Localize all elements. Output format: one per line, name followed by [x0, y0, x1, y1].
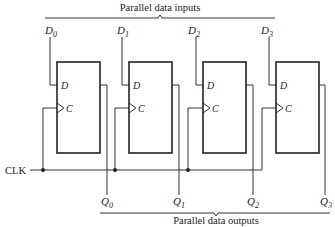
clock-label: CLK: [5, 165, 26, 176]
data-output-q2: Q2: [247, 195, 259, 210]
flip-flop-1: D1 D C Q1: [115, 24, 185, 210]
data-input-d2: D2: [187, 24, 200, 39]
ff2-c-pin: C: [212, 103, 219, 114]
clock-line: CLK: [5, 165, 262, 176]
ff1-d-pin: D: [132, 80, 141, 91]
shift-register-diagram: Parallel data inputs D0 D C Q0 D1 D C Q1…: [0, 0, 335, 227]
data-input-d0: D0: [44, 24, 57, 39]
ff0-c-pin: C: [66, 103, 73, 114]
ff1-c-pin: C: [138, 103, 145, 114]
flip-flop-3: D3 D C Q3: [260, 24, 332, 210]
data-input-d3: D3: [260, 24, 273, 39]
junction-dot: [113, 168, 117, 172]
ff2-d-pin: D: [206, 80, 215, 91]
outputs-brace: Parallel data outputs: [100, 213, 330, 226]
inputs-brace: Parallel data inputs: [45, 2, 275, 18]
ff0-d-pin: D: [60, 80, 69, 91]
junction-dot: [41, 168, 45, 172]
data-output-q1: Q1: [173, 195, 185, 210]
outputs-label: Parallel data outputs: [173, 215, 259, 226]
flip-flop-0: D0 D C Q0: [43, 24, 113, 210]
data-output-q3: Q3: [320, 195, 332, 210]
data-output-q0: Q0: [101, 195, 113, 210]
ff3-c-pin: C: [285, 103, 292, 114]
data-input-d1: D1: [116, 24, 129, 39]
ff3-d-pin: D: [279, 80, 288, 91]
inputs-label: Parallel data inputs: [120, 2, 200, 13]
junction-dot: [186, 168, 190, 172]
flip-flop-2: D2 D C Q2: [187, 24, 259, 210]
